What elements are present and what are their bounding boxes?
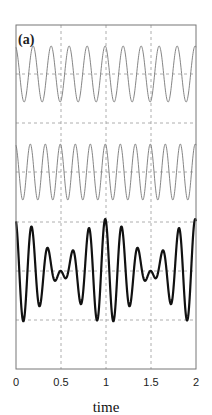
- panel-label: (a): [18, 32, 35, 48]
- x-tick-labels: 00.511.52: [13, 376, 199, 388]
- x-tick-label: 2: [193, 376, 199, 388]
- plot-figure: (a) 00.511.52 time: [0, 0, 212, 415]
- x-tick-label: 0: [13, 376, 19, 388]
- sum-signal-trace: [16, 219, 196, 321]
- x-tick-label: 1.5: [143, 376, 158, 388]
- x-tick-label: 1: [103, 376, 109, 388]
- x-axis-label: time: [93, 399, 120, 415]
- plot-frame: [16, 25, 196, 369]
- x-tick-label: 0.5: [53, 376, 68, 388]
- grid-lines: [16, 25, 196, 369]
